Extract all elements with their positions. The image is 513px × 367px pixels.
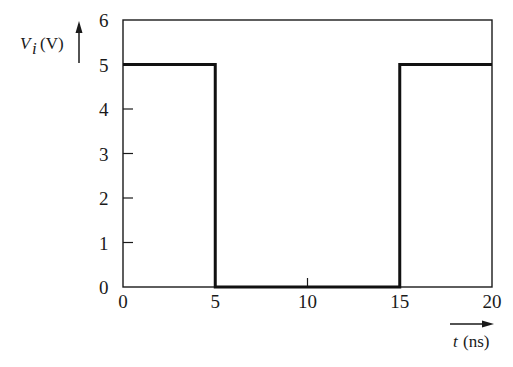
x-tick-label: 5 — [211, 291, 221, 312]
x-label-unit: (ns) — [463, 332, 489, 351]
x-axis-ticks: 05101520 — [118, 278, 501, 312]
y-tick-label: 2 — [99, 188, 109, 209]
y-label-unit: (V) — [40, 34, 64, 53]
chart-svg: 0123456 05101520 V i (V) t (ns) — [0, 0, 513, 367]
series-line — [123, 65, 492, 288]
x-axis-label: t (ns) — [453, 332, 489, 351]
x-axis-arrow-icon — [450, 321, 494, 328]
y-axis-label: V i (V) — [20, 34, 64, 58]
x-tick-label: 0 — [118, 291, 128, 312]
y-tick-label: 0 — [99, 277, 109, 298]
y-tick-label: 5 — [99, 55, 109, 76]
y-axis-ticks: 0123456 — [99, 10, 133, 298]
x-tick-label: 20 — [483, 291, 502, 312]
x-tick-label: 10 — [298, 291, 317, 312]
y-tick-label: 6 — [99, 10, 109, 31]
y-label-sub: i — [32, 39, 37, 58]
waveform-series — [123, 65, 492, 288]
plot-frame — [123, 20, 492, 287]
x-label-var: t — [453, 332, 459, 351]
y-axis-arrow-icon — [76, 21, 83, 63]
x-tick-label: 15 — [390, 291, 409, 312]
y-tick-label: 4 — [99, 99, 109, 120]
y-tick-label: 1 — [99, 233, 109, 254]
y-tick-label: 3 — [99, 144, 109, 165]
